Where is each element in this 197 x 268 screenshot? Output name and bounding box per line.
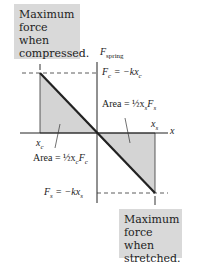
xc-label: xc — [36, 137, 44, 151]
fs-equation: Fs = −kxs — [44, 186, 83, 200]
area-compressed-label: Area = ½xcFc — [33, 152, 88, 166]
callout-compressed: Maximum force when compressed. — [14, 4, 80, 59]
xs-label: xs — [151, 118, 158, 132]
spring-force-diagram: Maximum force when compressed. Maximum f… — [0, 0, 197, 268]
y-axis-label: Fspring — [100, 46, 124, 60]
callout-stretched: Maximum force when stretched. — [119, 209, 182, 258]
fc-equation: Fc = −kxc — [102, 66, 142, 80]
x-axis-label: x — [170, 125, 174, 136]
area-stretched-label: Area = ½xsFs — [102, 98, 156, 112]
